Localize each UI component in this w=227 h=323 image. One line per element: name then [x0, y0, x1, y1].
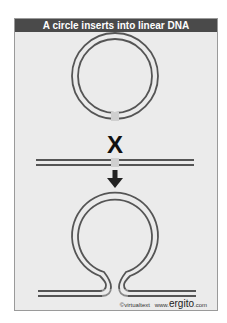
crossover-mark: X: [107, 131, 123, 158]
down-arrow-icon: [107, 170, 123, 188]
tld-text: .com: [194, 302, 207, 308]
circular-dna: [72, 33, 158, 119]
copyright-text: ©virtualtext: [120, 302, 150, 308]
integrated-dna: [38, 193, 196, 296]
brand-text: ergito: [169, 298, 194, 309]
junction-highlight: [102, 289, 128, 298]
diagram-artwork: X: [0, 0, 227, 323]
www-text: www.: [155, 302, 169, 308]
copyright-credit: ©virtualtext www.ergito.com: [120, 298, 207, 309]
circle-recombination-site: [111, 112, 119, 121]
linear-recombination-site: [111, 158, 119, 167]
